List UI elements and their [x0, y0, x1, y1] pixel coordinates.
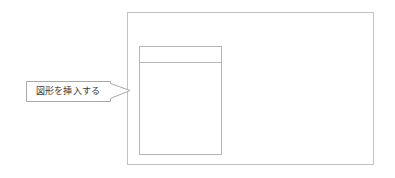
callout-text: 図形を挿入する [26, 81, 110, 101]
diagram-canvas: 図形を挿入する [0, 0, 395, 178]
